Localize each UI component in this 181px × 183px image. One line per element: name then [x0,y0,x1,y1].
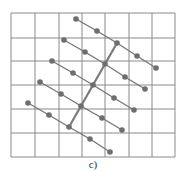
atom-dot [107,149,113,155]
atom-dot [102,61,108,67]
atom-dot [131,107,137,113]
atom-dot [114,40,120,46]
atom-dot [94,28,100,34]
atom-dot [87,136,93,142]
atom-dot [90,82,96,88]
atom-dot [134,53,140,59]
atom-dot [49,58,55,64]
atom-dot [25,100,31,106]
atom-dot [70,70,76,76]
atom-dot [111,95,117,101]
atom-dot [73,16,79,22]
atom-dot [46,112,52,118]
atom-dot [119,127,125,133]
lattice-diagram [0,0,181,183]
atom-dot [82,49,88,55]
atom-dot [78,103,84,109]
atom-dot [66,124,72,130]
atom-dot [142,86,148,92]
atom-dot [153,65,159,71]
atom-dot [58,91,64,97]
atom-dot [61,37,67,43]
atom-dot [122,74,128,80]
atom-dot [37,79,43,85]
atom-dot [99,115,105,121]
figure-label: c) [0,158,181,170]
